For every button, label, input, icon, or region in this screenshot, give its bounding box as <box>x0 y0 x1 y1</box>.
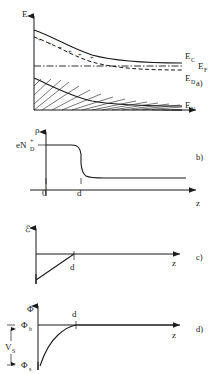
svg-text:+: + <box>78 51 82 58</box>
svg-text:b: b <box>29 326 32 332</box>
conduction-band-label-sub: C <box>191 57 195 63</box>
physics-figure: E + + + + + + <box>0 0 220 374</box>
panel-b-x-axis-label: z <box>196 198 200 208</box>
charge-density-curve <box>46 145 186 178</box>
panel-b-x-ticks <box>46 178 81 184</box>
svg-text:+: + <box>48 40 52 47</box>
svg-text:+: + <box>30 138 34 144</box>
panel-c-axes <box>36 228 180 284</box>
panel-d-potential: Φ z d Φ b Φ s <box>0 296 220 374</box>
band-bending-label: V S <box>5 342 15 354</box>
panel-a-label: a) <box>196 78 203 88</box>
panel-d-tick-depletion-label: d <box>72 309 77 319</box>
panel-c-tick-depletion-label: d <box>70 262 75 272</box>
svg-text:+: + <box>38 36 42 43</box>
valence-band-hatching <box>34 79 182 110</box>
panel-b-label: b) <box>196 152 203 162</box>
panel-c-y-axis-label: ℰ <box>25 224 31 234</box>
panel-c-electric-field: ℰ z d c) <box>0 218 220 296</box>
svg-text:S: S <box>12 348 15 354</box>
panel-a-band-diagram: E + + + + + + <box>0 0 220 118</box>
svg-text:+: + <box>90 54 94 61</box>
electric-field-curve <box>36 254 74 280</box>
svg-text:D: D <box>30 146 35 152</box>
panel-b-tick-origin-label: 0 <box>42 188 47 198</box>
charge-density-value-label: eN D + <box>16 138 35 152</box>
svg-text:Φ: Φ <box>21 320 28 330</box>
bulk-potential-label: Φ b <box>21 320 32 332</box>
panel-d-axes <box>38 306 180 370</box>
svg-text:+: + <box>68 48 72 55</box>
panel-c-x-axis-label: z <box>172 258 176 268</box>
donor-level-curve <box>34 37 182 70</box>
svg-text:V: V <box>5 342 12 352</box>
panel-b-tick-depletion-label: d <box>77 188 82 198</box>
panel-d-label: d) <box>196 324 203 334</box>
svg-text:+: + <box>58 44 62 51</box>
svg-text:eN: eN <box>16 140 27 150</box>
panel-d-x-axis-label: z <box>172 330 176 340</box>
panel-b-charge-density: ρ z eN D + 0 d b) <box>0 118 220 218</box>
panel-a-y-axis-label: E <box>22 9 28 19</box>
fermi-level-label-sub: F <box>204 67 208 73</box>
svg-text:Φ: Φ <box>21 360 28 370</box>
conduction-band-curve <box>34 30 182 63</box>
panel-d-y-axis-label: Φ <box>27 304 34 314</box>
panel-b-y-axis-label: ρ <box>35 125 40 135</box>
surface-potential-label: Φ s <box>21 360 32 372</box>
valence-band-label-sub: V <box>191 106 196 112</box>
panel-b-axes <box>30 132 196 196</box>
ionized-donor-markers: + + + + + + <box>38 36 94 61</box>
svg-text:s: s <box>29 366 32 372</box>
potential-curve <box>40 325 176 366</box>
panel-c-label: c) <box>196 252 203 262</box>
